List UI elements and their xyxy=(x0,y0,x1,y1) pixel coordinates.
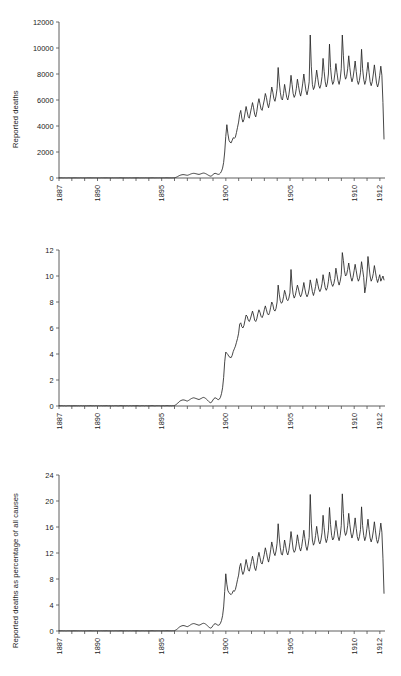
y-tick-label: 0 xyxy=(49,402,53,411)
y-tick-label: 8 xyxy=(49,575,53,584)
y-tick-label: 6 xyxy=(49,324,53,333)
x-tick-label: 1905 xyxy=(286,638,295,654)
data-series-line xyxy=(59,35,384,178)
x-tick-label: 1895 xyxy=(157,185,166,201)
x-tick-label: 1912 xyxy=(375,413,384,429)
x-tick-label: 1912 xyxy=(375,638,384,654)
x-tick-label: 1895 xyxy=(157,413,166,429)
y-tick-label: 24 xyxy=(45,471,53,480)
data-series-line xyxy=(59,494,384,631)
x-tick-label: 1900 xyxy=(221,413,230,429)
x-tick-label: 1890 xyxy=(93,413,102,429)
y-tick-label: 16 xyxy=(45,523,53,532)
y-tick-label: 10 xyxy=(45,272,53,281)
y-axis-label-panel-0: Reported deaths xyxy=(11,90,20,148)
data-series-line xyxy=(59,253,384,406)
x-tick-label: 1910 xyxy=(350,638,359,654)
y-tick-label: 12 xyxy=(45,246,53,255)
plot-area-panel-1: 0246810121887189018951900190519101912 xyxy=(0,228,401,453)
y-tick-label: 2 xyxy=(49,376,53,385)
y-tick-label: 4000 xyxy=(37,122,53,131)
x-tick-label: 1887 xyxy=(55,413,64,429)
y-tick-label: 8 xyxy=(49,298,53,307)
y-tick-label: 10000 xyxy=(33,44,54,53)
y-tick-label: 0 xyxy=(49,174,53,183)
x-tick-label: 1887 xyxy=(55,185,64,201)
chart-panel-percentage-of-all-causes: Reported deaths as percentage of all cau… xyxy=(0,228,401,453)
y-tick-label: 4 xyxy=(49,601,53,610)
y-tick-label: 20 xyxy=(45,497,53,506)
y-tick-label: 2000 xyxy=(37,148,53,157)
y-tick-label: 0 xyxy=(49,627,53,636)
x-tick-label: 1890 xyxy=(93,185,102,201)
chart-panel-deaths-per-100000: Reported deaths per 100,000 population 0… xyxy=(0,455,401,676)
x-tick-label: 1905 xyxy=(286,413,295,429)
y-tick-label: 8000 xyxy=(37,70,53,79)
x-tick-label: 1905 xyxy=(286,185,295,201)
x-tick-label: 1910 xyxy=(350,185,359,201)
x-tick-label: 1912 xyxy=(375,185,384,201)
x-tick-label: 1900 xyxy=(221,638,230,654)
x-tick-label: 1910 xyxy=(350,413,359,429)
plot-area-panel-2: 048121620241887189018951900190519101912 xyxy=(0,455,401,676)
y-tick-label: 6000 xyxy=(37,96,53,105)
chart-panel-reported-deaths: Reported deaths 020004000600080001000012… xyxy=(0,0,401,225)
plot-area-panel-0: 0200040006000800010000120001887189018951… xyxy=(0,0,401,225)
x-tick-label: 1887 xyxy=(55,638,64,654)
x-tick-label: 1900 xyxy=(221,185,230,201)
y-tick-label: 12 xyxy=(45,549,53,558)
x-tick-label: 1895 xyxy=(157,638,166,654)
y-tick-label: 4 xyxy=(49,350,53,359)
y-tick-label: 12000 xyxy=(33,18,54,27)
x-tick-label: 1890 xyxy=(93,638,102,654)
